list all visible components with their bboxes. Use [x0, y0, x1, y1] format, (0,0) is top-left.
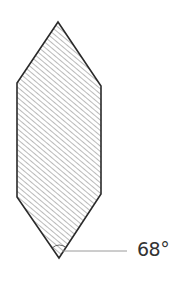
hatched-hexagon	[17, 22, 101, 258]
angle-label: 68°	[137, 238, 169, 260]
